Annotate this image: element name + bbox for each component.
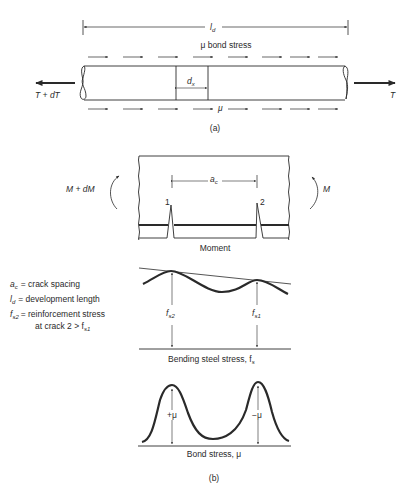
diagram-canvas: ld μ bond stress dx (0, 0, 405, 496)
dx-label: dx (187, 76, 196, 87)
reinforcing-bar (80, 66, 348, 100)
minus-mu-label: −μ (252, 410, 262, 420)
bond-stress-panel: +μ −μ Bond stress, μ (138, 382, 291, 459)
envelope-line (139, 268, 291, 284)
bond-stress-title: μ bond stress (200, 40, 251, 50)
left-moment-label: M + dM (66, 184, 95, 194)
crack-1-label: 1 (165, 197, 170, 207)
right-moment-label: M (323, 184, 331, 194)
fs2-label: fs2 (166, 308, 175, 319)
legend-item-reinforcement-stress: fs2= reinforcement stress (10, 309, 105, 320)
bottom-mu-label: μ (217, 103, 223, 113)
bond-stress-caption: Bond stress, μ (187, 449, 242, 459)
left-force-label: T + dT (35, 90, 61, 100)
moment-caption: Moment (200, 243, 231, 253)
figure-a-caption: (a) (210, 123, 221, 133)
fs1-label: fs1 (252, 308, 261, 319)
right-force-label: T (390, 90, 396, 100)
development-length-dimension: ld (83, 20, 348, 35)
moment-panel: ac 1 2 M + dM M Moment (66, 156, 331, 253)
ac-label: ac (210, 174, 218, 185)
legend-item-crack-spacing: ac= crack spacing (10, 279, 80, 290)
figure-b-caption: (b) (209, 473, 220, 483)
figure-b: ac 1 2 M + dM M Moment ac= crack spacing… (10, 156, 331, 483)
plus-mu-label: +μ (167, 410, 177, 420)
ld-label: ld (210, 22, 216, 33)
crack-2-label: 2 (260, 197, 265, 207)
figure-a: ld μ bond stress dx (35, 20, 396, 133)
legend-item-development-length: ld= development length (10, 294, 100, 305)
steel-stress-panel: fs2 fs1 Bending steel stress, fs (139, 268, 291, 365)
steel-stress-caption: Bending steel stress, fs (168, 354, 255, 365)
left-moment-arrow (110, 176, 119, 209)
legend: ac= crack spacing ld= development length… (10, 279, 105, 332)
legend-item-reinforcement-stress-cont: at crack 2 > fs1 (35, 321, 90, 332)
bond-stress-curve (142, 382, 289, 442)
right-moment-arrow (310, 177, 318, 209)
steel-stress-curve (143, 271, 288, 294)
